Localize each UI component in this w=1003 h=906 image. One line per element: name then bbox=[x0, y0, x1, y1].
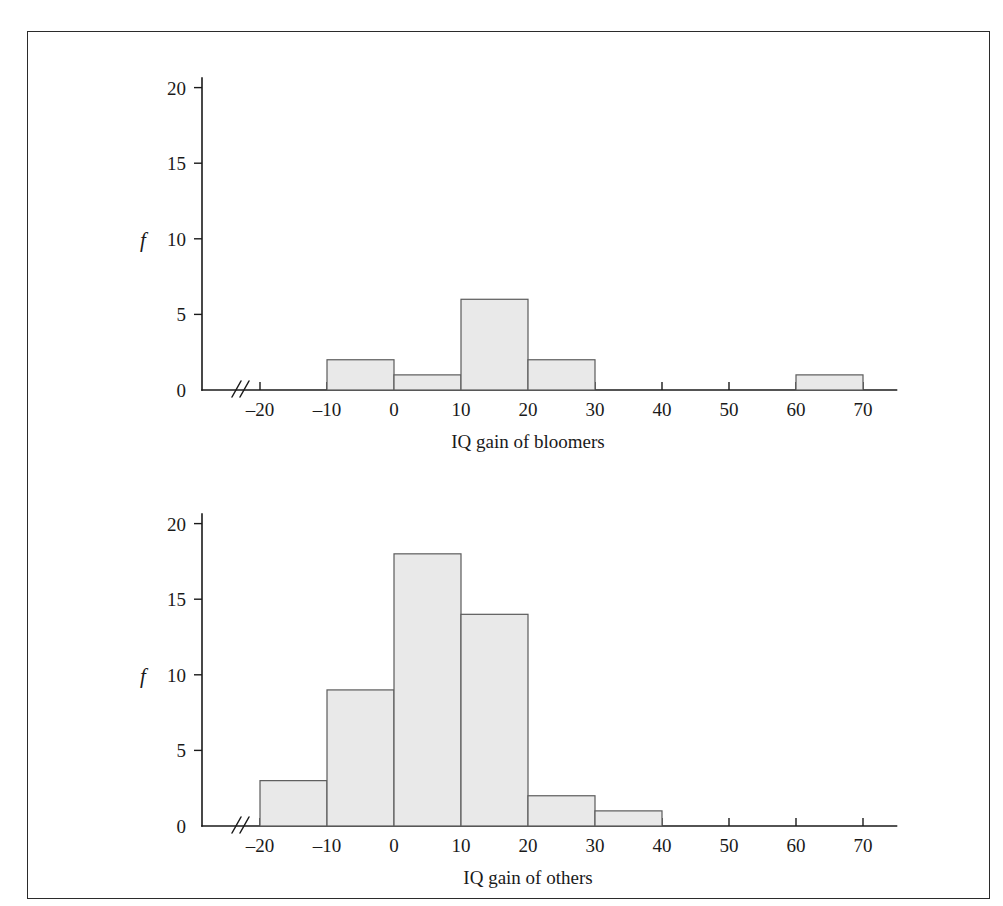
x-tick-label-30: 30 bbox=[586, 835, 605, 856]
histogram-bar bbox=[595, 811, 662, 826]
x-tick-label-60: 60 bbox=[787, 835, 806, 856]
histogram-bar bbox=[394, 375, 461, 390]
y-tick-label-0: 0 bbox=[177, 380, 187, 401]
histogram-bar bbox=[327, 690, 394, 826]
histogram-bar bbox=[461, 299, 528, 390]
y-tick-label-10: 10 bbox=[167, 229, 186, 250]
x-tick-label-50: 50 bbox=[720, 399, 739, 420]
y-tick-label-0: 0 bbox=[177, 816, 187, 837]
x-tick-label-20: 20 bbox=[519, 399, 538, 420]
y-axis-title: f bbox=[140, 228, 149, 252]
histogram-bar bbox=[327, 360, 394, 390]
x-tick-label-0: 0 bbox=[389, 399, 399, 420]
histogram-bar bbox=[528, 360, 595, 390]
y-tick-label-15: 15 bbox=[167, 589, 186, 610]
x-axis-title: IQ gain of bloomers bbox=[451, 431, 605, 452]
chart-others: 05101520f–20–10010203040506070IQ gain of… bbox=[30, 470, 960, 890]
x-tick-label--20: –20 bbox=[245, 835, 275, 856]
y-tick-label-20: 20 bbox=[167, 514, 186, 535]
x-tick-label-50: 50 bbox=[720, 835, 739, 856]
x-tick-label-10: 10 bbox=[452, 399, 471, 420]
histogram-bar bbox=[461, 614, 528, 826]
y-tick-label-20: 20 bbox=[167, 78, 186, 99]
x-tick-label-70: 70 bbox=[854, 399, 873, 420]
y-tick-label-10: 10 bbox=[167, 665, 186, 686]
y-tick-label-15: 15 bbox=[167, 153, 186, 174]
y-tick-label-5: 5 bbox=[177, 740, 187, 761]
others-histogram-svg: 05101520f–20–10010203040506070IQ gain of… bbox=[30, 470, 960, 890]
histogram-bar bbox=[260, 781, 327, 826]
axis-break-slash-1 bbox=[232, 817, 241, 833]
histogram-bar bbox=[394, 554, 461, 826]
axis-break-slash-2 bbox=[240, 381, 249, 397]
chart-bloomers: 05101520f–20–10010203040506070IQ gain of… bbox=[30, 34, 960, 454]
x-tick-label-10: 10 bbox=[452, 835, 471, 856]
axis-break-slash-2 bbox=[240, 817, 249, 833]
x-tick-label--10: –10 bbox=[312, 399, 342, 420]
histogram-bar bbox=[528, 796, 595, 826]
histogram-bar bbox=[796, 375, 863, 390]
x-tick-label-70: 70 bbox=[854, 835, 873, 856]
others-plot-group: 05101520f–20–10010203040506070IQ gain of… bbox=[140, 514, 897, 888]
x-tick-label-60: 60 bbox=[787, 399, 806, 420]
page-canvas: 05101520f–20–10010203040506070IQ gain of… bbox=[0, 0, 1003, 906]
x-tick-label--20: –20 bbox=[245, 399, 275, 420]
x-axis-title: IQ gain of others bbox=[463, 867, 592, 888]
bloomers-plot-group: 05101520f–20–10010203040506070IQ gain of… bbox=[140, 78, 897, 452]
x-tick-label-0: 0 bbox=[389, 835, 399, 856]
x-tick-label-40: 40 bbox=[653, 835, 672, 856]
axis-break-slash-1 bbox=[232, 381, 241, 397]
x-tick-label-20: 20 bbox=[519, 835, 538, 856]
x-tick-label--10: –10 bbox=[312, 835, 342, 856]
y-tick-label-5: 5 bbox=[177, 304, 187, 325]
x-tick-label-40: 40 bbox=[653, 399, 672, 420]
bloomers-histogram-svg: 05101520f–20–10010203040506070IQ gain of… bbox=[30, 34, 960, 454]
x-tick-label-30: 30 bbox=[586, 399, 605, 420]
y-axis-title: f bbox=[140, 664, 149, 688]
